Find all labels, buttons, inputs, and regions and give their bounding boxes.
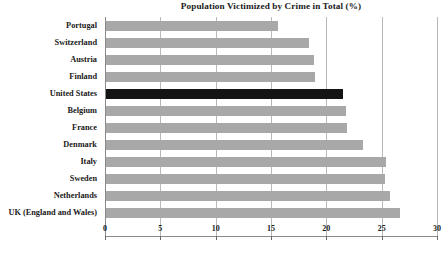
bar-chart: Population Victimized by Crime in Total … (0, 0, 446, 258)
bar-row (106, 103, 438, 120)
bar-row (106, 188, 438, 205)
x-tick-label: 10 (212, 224, 220, 233)
category-label: Sweden (0, 174, 97, 184)
bar (106, 89, 343, 99)
bar (106, 55, 314, 65)
category-label: Belgium (0, 106, 97, 116)
x-tick-mark (382, 236, 383, 240)
x-tick-label: 0 (103, 224, 107, 233)
category-label: Denmark (0, 140, 97, 150)
bar-row (106, 18, 438, 35)
plot-area (105, 17, 437, 237)
bar-row (106, 52, 438, 69)
category-label: UK (England and Wales) (0, 208, 97, 218)
bar-row (106, 86, 438, 103)
category-label: Portugal (0, 21, 97, 31)
bar (106, 38, 309, 48)
bar (106, 123, 347, 133)
chart-title: Population Victimized by Crime in Total … (105, 1, 437, 11)
x-tick-mark (216, 236, 217, 240)
x-tick-label: 30 (433, 224, 441, 233)
category-label: Austria (0, 55, 97, 65)
bar (106, 106, 346, 116)
bar-row (106, 171, 438, 188)
x-tick-mark (271, 236, 272, 240)
bar (106, 72, 315, 82)
category-label: Italy (0, 157, 97, 167)
bar (106, 21, 278, 31)
x-tick-label: 15 (267, 224, 275, 233)
bar-row (106, 154, 438, 171)
bar (106, 208, 400, 218)
bar-row (106, 120, 438, 137)
bar (106, 174, 385, 184)
category-label: Finland (0, 72, 97, 82)
category-label: United States (0, 89, 97, 99)
bar (106, 140, 363, 150)
bar-row (106, 69, 438, 86)
category-label: Netherlands (0, 191, 97, 201)
category-label: Switzerland (0, 38, 97, 48)
x-tick-label: 20 (322, 224, 330, 233)
bar (106, 157, 386, 167)
x-tick-mark (160, 236, 161, 240)
x-tick-label: 25 (378, 224, 386, 233)
bar-row (106, 137, 438, 154)
bar-row (106, 205, 438, 222)
x-tick-mark (326, 236, 327, 240)
x-tick-mark (105, 236, 106, 240)
x-tick-mark (437, 236, 438, 240)
category-label: France (0, 123, 97, 133)
bar (106, 191, 390, 201)
bar-row (106, 35, 438, 52)
x-tick-label: 5 (158, 224, 162, 233)
